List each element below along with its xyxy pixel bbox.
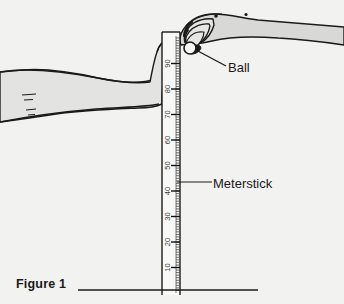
- ball-leader-line: [196, 50, 226, 66]
- meterstick-tick-label: 80: [163, 85, 172, 93]
- meterstick: 908070605040302010: [162, 32, 180, 295]
- meterstick-callout-label: Meterstick: [213, 176, 272, 191]
- meterstick-tick-label: 40: [163, 187, 172, 195]
- right-arm-dropping: [180, 13, 344, 54]
- figure-illustration: 908070605040302010: [0, 0, 344, 304]
- left-arm-catching: [0, 42, 168, 122]
- meterstick-tick-label: 50: [163, 161, 172, 169]
- meterstick-tick-label: 20: [163, 238, 172, 246]
- ball-callout-label: Ball: [228, 60, 250, 75]
- meterstick-tick-label: 10: [163, 263, 172, 271]
- figure-caption: Figure 1: [16, 277, 66, 291]
- callout-leaders: [177, 50, 226, 182]
- meterstick-tick-label: 30: [163, 212, 172, 220]
- ball: [184, 42, 196, 54]
- meterstick-tick-label: 70: [163, 110, 172, 118]
- meterstick-tick-label: 90: [163, 59, 172, 67]
- meterstick-tick-label: 60: [163, 136, 172, 144]
